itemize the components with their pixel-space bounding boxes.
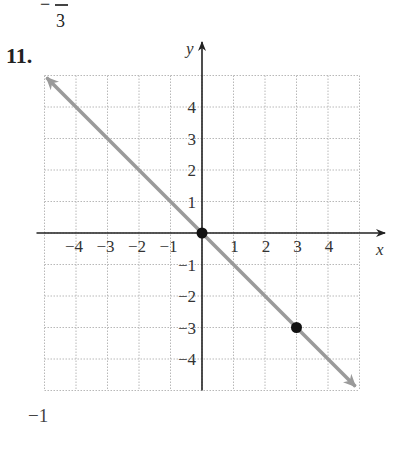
x-axis-label: x xyxy=(375,240,384,259)
answer-text: −1 xyxy=(28,405,48,427)
line-arrow-upper xyxy=(47,78,202,233)
y-tick-label: −2 xyxy=(178,287,196,306)
x-tick-label: 2 xyxy=(262,237,271,256)
y-tick-label: 2 xyxy=(188,161,197,180)
x-tick-label: −2 xyxy=(128,237,146,256)
x-tick-label: 1 xyxy=(230,237,239,256)
y-tick-label: 3 xyxy=(188,130,197,149)
coordinate-graph: xy −4−3−2−112344321−1−2−3−4 xyxy=(0,0,408,449)
y-tick-label: 4 xyxy=(188,98,197,117)
y-tick-label: −3 xyxy=(178,319,196,338)
x-tick-label: 4 xyxy=(325,237,334,256)
x-tick-label: −1 xyxy=(159,237,177,256)
plotted-point xyxy=(291,322,302,333)
y-tick-label: 1 xyxy=(188,193,197,212)
y-tick-label: −4 xyxy=(178,350,197,369)
x-tick-label: −4 xyxy=(65,237,84,256)
axes: xy xyxy=(37,39,386,391)
y-tick-label: −1 xyxy=(178,256,196,275)
x-tick-label: 3 xyxy=(293,237,302,256)
x-tick-label: −3 xyxy=(96,237,114,256)
y-axis-label: y xyxy=(184,39,194,58)
plotted-point xyxy=(197,228,208,239)
